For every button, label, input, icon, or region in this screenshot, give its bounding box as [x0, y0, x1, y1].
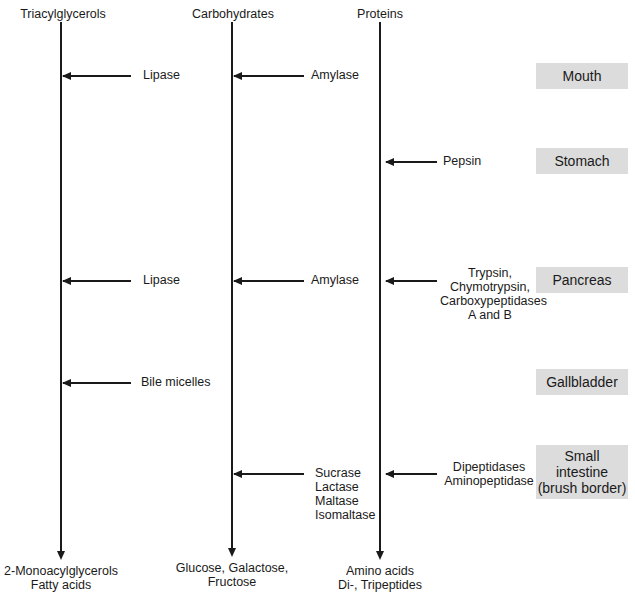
organ-stomach: Stomach: [536, 148, 628, 174]
enzymes-pancreas-protein: Trypsin, Chymotrypsin, Carboxypeptidases…: [440, 266, 540, 322]
arrow-left-icon: [234, 473, 304, 475]
arrow-left-icon: [386, 280, 437, 282]
enzyme-amylase-pancreas: Amylase: [311, 273, 359, 287]
arrow-down-icon: [57, 551, 65, 560]
organ-small-intestine: Small intestine (brush border): [536, 445, 628, 499]
enzyme-lipase-mouth: Lipase: [143, 68, 180, 82]
organ-pancreas: Pancreas: [536, 267, 628, 293]
arrow-left-icon: [386, 161, 437, 163]
column-title-proteins: Proteins: [340, 7, 420, 21]
enzyme-lipase-pancreas: Lipase: [143, 273, 180, 287]
arrow-left-icon: [234, 75, 304, 77]
arrow-left-icon: [63, 382, 131, 384]
arrow-down-icon: [228, 548, 236, 557]
arrow-left-icon: [63, 280, 131, 282]
protein-flow-line: [379, 22, 381, 552]
products-proteins: Amino acids Di-, Tripeptides: [333, 564, 427, 592]
arrow-down-icon: [376, 551, 384, 560]
enzyme-bile-micelles: Bile micelles: [141, 375, 210, 389]
column-title-carbohydrates: Carbohydrates: [178, 7, 288, 21]
organ-gallbladder: Gallbladder: [536, 369, 628, 395]
column-title-triacylglycerols: Triacylglycerols: [8, 7, 118, 21]
arrow-left-icon: [234, 280, 304, 282]
products-triacylglycerols: 2-Monoacylglycerols Fatty acids: [0, 564, 122, 592]
enzymes-small-intestine-protein: Dipeptidases Aminopeptidase: [442, 460, 536, 488]
triacylglycerol-flow-line: [60, 22, 62, 552]
enzymes-small-intestine-carb: Sucrase Lactase Maltase Isomaltase: [315, 466, 375, 522]
arrow-left-icon: [63, 75, 131, 77]
enzyme-pepsin: Pepsin: [443, 154, 481, 168]
enzyme-amylase-mouth: Amylase: [311, 68, 359, 82]
arrow-left-icon: [386, 473, 437, 475]
products-carbohydrates: Glucose, Galactose, Fructose: [170, 561, 294, 589]
organ-mouth: Mouth: [536, 63, 628, 89]
